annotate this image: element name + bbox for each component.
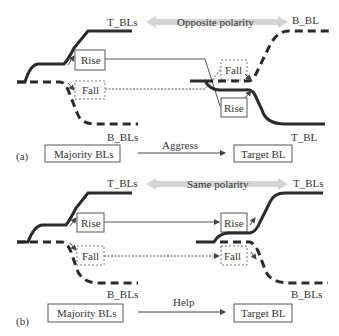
left-bottom-label: B_BLs [107, 131, 138, 143]
target-bl-label: Target BL [241, 307, 286, 319]
left-top-label: T_BLs [107, 16, 138, 28]
right-top-label: B_BL [292, 14, 319, 26]
left-rise-label: Rise [81, 217, 101, 229]
panel-b-tag: (b) [16, 315, 29, 328]
relation-label: Aggress [162, 139, 198, 151]
polarity-arrowhead-left-icon [146, 178, 156, 190]
polarity-label: Same polarity [187, 178, 249, 190]
right-top-label: T_BLs [293, 177, 324, 189]
right-tbl-waveform [190, 81, 325, 124]
right-tbl-waveform [196, 193, 323, 242]
polarity-arrowhead-left-icon [146, 16, 156, 28]
target-bl-label: Target BL [241, 148, 286, 160]
majority-bls-label: Majority BLs [54, 148, 114, 160]
right-bottom-label: B_BLs [291, 288, 322, 300]
right-fall-label: Fall [224, 250, 241, 262]
left-tbl-waveform [17, 193, 132, 242]
left-top-label: T_BLs [107, 177, 138, 189]
bitline-coupling-diagram: Opposite polarity T_BLs B_BLs Rise Fall … [0, 0, 339, 336]
left-fall-label: Fall [82, 84, 99, 96]
panel-a-tag: (a) [16, 150, 29, 163]
polarity-arrowhead-right-icon [278, 16, 288, 28]
right-rise-label: Rise [224, 217, 244, 229]
panel-a: Opposite polarity T_BLs B_BLs Rise Fall … [16, 14, 330, 163]
relation-label: Help [173, 296, 195, 308]
majority-bls-label: Majority BLs [57, 307, 117, 319]
right-rise-label: Rise [224, 102, 244, 114]
panel-b: Same polarity T_BLs B_BLs Rise Fall Rise… [16, 177, 328, 328]
left-bottom-label: B_BLs [107, 288, 138, 300]
right-bottom-label: T_BL [291, 131, 318, 143]
polarity-arrowhead-right-icon [278, 178, 288, 190]
polarity-label: Opposite polarity [177, 16, 254, 28]
left-rise-label: Rise [81, 54, 101, 66]
right-fall-label: Fall [225, 64, 242, 76]
left-fall-label: Fall [82, 250, 99, 262]
